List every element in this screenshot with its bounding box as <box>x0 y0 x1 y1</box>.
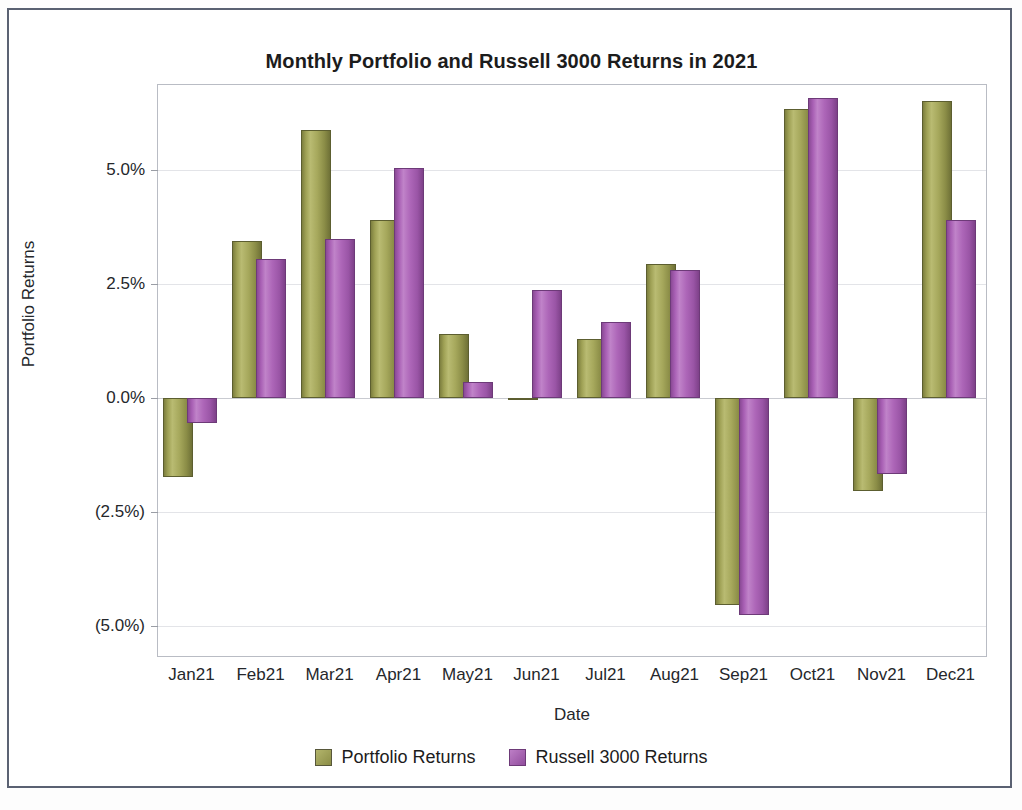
x-axis-tick-label: Jul21 <box>571 665 640 685</box>
legend-item-russell-3000-returns[interactable]: Russell 3000 Returns <box>509 747 707 768</box>
x-axis-tick-label: Dec21 <box>916 665 985 685</box>
x-axis-tick-label: Jun21 <box>502 665 571 685</box>
gridline <box>158 626 986 627</box>
chart-legend: Portfolio ReturnsRussell 3000 Returns <box>9 747 1014 768</box>
bar-feb21-russell3000 <box>256 259 286 398</box>
scanned-page-background: Monthly Portfolio and Russell 3000 Retur… <box>0 0 1022 810</box>
chart-container: Monthly Portfolio and Russell 3000 Retur… <box>9 10 1014 790</box>
bar-nov21-russell3000 <box>877 398 907 474</box>
chart-outer-frame: Monthly Portfolio and Russell 3000 Retur… <box>7 8 1012 788</box>
y-axis-tick-label: 2.5% <box>15 275 145 292</box>
x-axis-tick-label: Oct21 <box>778 665 847 685</box>
x-axis-tick-label: Aug21 <box>640 665 709 685</box>
y-axis-tick-label: 0.0% <box>15 389 145 406</box>
bar-jul21-russell3000 <box>601 322 631 398</box>
y-axis-tick-mark <box>151 284 158 285</box>
gridline <box>158 512 986 513</box>
y-axis-tick-mark <box>151 512 158 513</box>
y-axis-tick-mark <box>151 626 158 627</box>
y-axis-tick-labels: 5.0%2.5%0.0%(2.5%)(5.0%) <box>9 84 157 657</box>
legend-swatch-icon <box>315 749 332 766</box>
legend-swatch-icon <box>509 749 526 766</box>
y-axis-tick-label: (2.5%) <box>15 503 145 520</box>
x-axis-title: Date <box>157 705 987 725</box>
bar-jun21-russell3000 <box>532 290 562 398</box>
y-axis-tick-mark <box>151 398 158 399</box>
x-axis-tick-label: Jan21 <box>157 665 226 685</box>
x-axis-tick-label: Apr21 <box>364 665 433 685</box>
x-axis-tick-labels: Jan21Feb21Mar21Apr21May21Jun21Jul21Aug21… <box>157 665 987 695</box>
x-axis-tick-label: Nov21 <box>847 665 916 685</box>
x-axis-tick-label: Mar21 <box>295 665 364 685</box>
y-axis-tick-label: (5.0%) <box>15 617 145 634</box>
y-axis-tick-mark <box>151 170 158 171</box>
bar-jun21-portfolio <box>508 398 538 400</box>
bar-oct21-russell3000 <box>808 98 838 398</box>
x-axis-tick-label: May21 <box>433 665 502 685</box>
x-axis-tick-label: Feb21 <box>226 665 295 685</box>
bar-aug21-russell3000 <box>670 270 700 397</box>
bar-may21-russell3000 <box>463 382 493 398</box>
chart-title: Monthly Portfolio and Russell 3000 Retur… <box>9 50 1014 73</box>
bar-dec21-russell3000 <box>946 220 976 398</box>
bar-apr21-russell3000 <box>394 168 424 398</box>
gridline <box>158 170 986 171</box>
bar-sep21-russell3000 <box>739 398 769 615</box>
y-axis-tick-label: 5.0% <box>15 161 145 178</box>
legend-item-portfolio-returns[interactable]: Portfolio Returns <box>315 747 475 768</box>
plot-area <box>158 85 986 656</box>
x-axis-tick-label: Sep21 <box>709 665 778 685</box>
legend-label: Portfolio Returns <box>341 747 475 768</box>
legend-label: Russell 3000 Returns <box>535 747 707 768</box>
bar-mar21-russell3000 <box>325 239 355 398</box>
bar-jan21-russell3000 <box>187 398 217 424</box>
plot-frame <box>157 84 987 657</box>
